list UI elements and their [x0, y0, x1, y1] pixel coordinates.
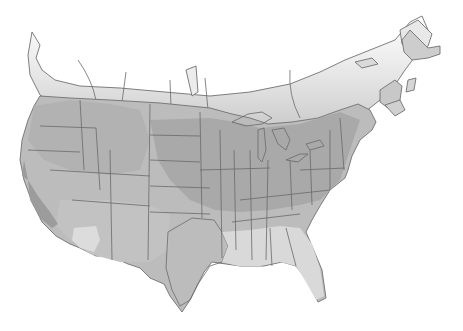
usa-region [20, 96, 376, 312]
us-canada-map [0, 0, 463, 331]
